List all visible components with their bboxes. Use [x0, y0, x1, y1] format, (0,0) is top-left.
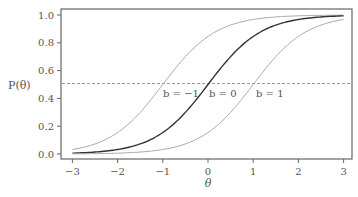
x-tick-label: 1: [250, 166, 256, 177]
y-axis-title: P(θ): [8, 79, 31, 92]
x-tick-label: −3: [65, 166, 80, 177]
y-tick-label: 0.2: [38, 121, 54, 132]
label-b-1: b = 1: [256, 88, 284, 99]
x-axis: −3−2−10123: [65, 159, 347, 177]
curves: [72, 15, 343, 154]
y-axis: 0.00.20.40.60.81.0: [38, 10, 61, 160]
x-tick-label: 3: [340, 166, 346, 177]
y-tick-label: 1.0: [38, 10, 54, 21]
x-tick-label: 2: [295, 166, 301, 177]
curve-b-1: [72, 19, 343, 153]
y-tick-label: 0.8: [38, 37, 54, 48]
label-b-neg1: b = −1: [163, 88, 199, 99]
y-tick-label: 0.6: [38, 65, 54, 76]
x-tick-label: 0: [205, 166, 211, 177]
y-tick-label: 0.4: [38, 93, 54, 104]
x-tick-label: −2: [110, 166, 125, 177]
y-tick-label: 0.0: [38, 149, 54, 160]
x-axis-title: θ: [205, 177, 212, 190]
irt-chart: 0.00.20.40.60.81.0 −3−2−10123 P(θ) θ b =…: [0, 0, 358, 197]
label-b-0: b = 0: [209, 88, 237, 99]
curve-b--1: [72, 15, 343, 149]
x-tick-label: −1: [155, 166, 170, 177]
